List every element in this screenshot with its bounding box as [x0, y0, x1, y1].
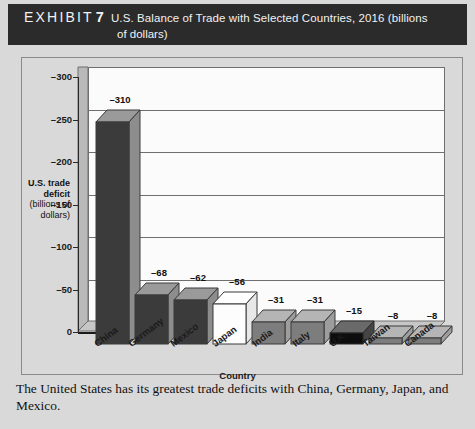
category-label-canada: Canada	[402, 319, 436, 348]
category-label-japan: Japan	[210, 323, 239, 348]
category-label-taiwan: Taiwan	[360, 321, 392, 349]
category-label-germany: Germany	[126, 315, 166, 349]
category-label-mexico: Mexico	[168, 321, 200, 349]
x-axis-category-labels: China Germany Mexico Japan India Italy U…	[0, 0, 475, 429]
category-label-italy: Italy	[290, 329, 312, 349]
category-label-india: India	[250, 327, 274, 349]
x-axis-title: Country	[0, 370, 475, 381]
exhibit-caption: The United States has its greatest trade…	[16, 381, 462, 414]
category-label-uk: U.K.	[327, 329, 349, 349]
category-label-china: China	[92, 324, 120, 349]
exhibit-figure: EXHIBIT7U.S. Balance of Trade with Selec…	[0, 0, 475, 429]
